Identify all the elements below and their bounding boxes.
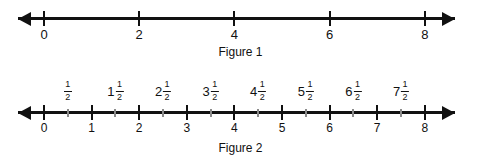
tick-major	[138, 11, 140, 26]
number-line-worksheet: 02468 Figure 1 0123456781211221231241251…	[0, 0, 481, 166]
mixed-number-label: 112	[107, 80, 123, 102]
mixed-number-whole: 1	[107, 85, 115, 98]
mixed-number-whole: 5	[298, 85, 306, 98]
mixed-number-whole: 2	[155, 85, 163, 98]
fraction-denominator: 2	[402, 93, 409, 103]
arrow-left-icon	[18, 106, 31, 120]
fraction-numerator: 1	[354, 80, 361, 90]
mixed-number-whole: 4	[250, 85, 258, 98]
tick-label: 2	[136, 28, 143, 41]
tick-label: 6	[326, 28, 333, 41]
fraction-one-half: 12	[258, 80, 266, 102]
fraction-one-half: 12	[306, 80, 314, 102]
mixed-number-label: 612	[345, 80, 361, 102]
tick-minor	[305, 109, 307, 117]
tick-minor	[67, 109, 69, 117]
arrow-right-icon	[442, 106, 455, 120]
fraction-numerator: 1	[164, 80, 171, 90]
tick-label: 3	[183, 122, 190, 134]
tick-major	[424, 105, 426, 120]
figure-1: 02468 Figure 1	[0, 0, 481, 62]
fraction-denominator: 2	[259, 93, 266, 103]
tick-minor	[162, 109, 164, 117]
mixed-number-label: 312	[202, 80, 218, 102]
arrow-left-icon	[18, 12, 31, 26]
tick-label: 0	[41, 122, 48, 134]
tick-label: 8	[421, 122, 428, 134]
tick-major	[233, 105, 235, 120]
fraction-denominator: 2	[164, 93, 171, 103]
tick-minor	[400, 109, 402, 117]
arrow-right-icon	[442, 12, 455, 26]
mixed-number-whole: 3	[202, 85, 210, 98]
tick-major	[91, 105, 93, 120]
fraction-numerator: 1	[259, 80, 266, 90]
fraction-numerator: 1	[64, 80, 71, 90]
fraction-numerator: 1	[306, 80, 313, 90]
axis-line	[18, 111, 455, 114]
tick-label: 7	[374, 122, 381, 134]
tick-minor	[352, 109, 354, 117]
fraction-one-half: 12	[354, 80, 362, 102]
tick-label: 1	[88, 122, 95, 134]
mixed-number-whole: 6	[345, 85, 353, 98]
fraction-one-half: 12	[64, 80, 72, 102]
tick-major	[329, 11, 331, 26]
figure-2: 01234567812112212312412512612712 Figure …	[0, 76, 481, 166]
tick-major	[424, 11, 426, 26]
mixed-number-label: 712	[393, 80, 409, 102]
fraction-denominator: 2	[64, 93, 71, 103]
mixed-number-label: 12	[64, 80, 72, 102]
tick-major	[233, 11, 235, 26]
tick-major	[186, 105, 188, 120]
fraction-numerator: 1	[116, 80, 123, 90]
fraction-one-half: 12	[116, 80, 124, 102]
tick-major	[138, 105, 140, 120]
tick-label: 2	[136, 122, 143, 134]
tick-label: 5	[279, 122, 286, 134]
tick-label: 4	[231, 122, 238, 134]
fraction-numerator: 1	[402, 80, 409, 90]
mixed-number-whole: 7	[393, 85, 401, 98]
fraction-one-half: 12	[401, 80, 409, 102]
axis-line	[18, 17, 455, 20]
fraction-denominator: 2	[354, 93, 361, 103]
tick-minor	[257, 109, 259, 117]
fraction-denominator: 2	[116, 93, 123, 103]
tick-major	[43, 105, 45, 120]
mixed-number-label: 212	[155, 80, 171, 102]
figure-1-caption: Figure 1	[0, 46, 481, 58]
fraction-one-half: 12	[163, 80, 171, 102]
tick-label: 0	[40, 28, 47, 41]
tick-minor	[114, 109, 116, 117]
tick-label: 4	[231, 28, 238, 41]
mixed-number-label: 412	[250, 80, 266, 102]
figure-2-caption: Figure 2	[0, 142, 481, 154]
fraction-numerator: 1	[211, 80, 218, 90]
tick-label: 8	[421, 28, 428, 41]
fraction-denominator: 2	[211, 93, 218, 103]
tick-label: 6	[326, 122, 333, 134]
tick-major	[376, 105, 378, 120]
tick-major	[329, 105, 331, 120]
tick-major	[43, 11, 45, 26]
fraction-one-half: 12	[211, 80, 219, 102]
fraction-denominator: 2	[306, 93, 313, 103]
tick-major	[281, 105, 283, 120]
mixed-number-label: 512	[298, 80, 314, 102]
tick-minor	[210, 109, 212, 117]
